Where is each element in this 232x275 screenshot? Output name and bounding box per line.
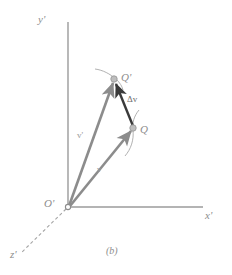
y-axis-label: y' (38, 14, 45, 25)
vector-group (69, 83, 133, 206)
vector-v-label: v (97, 165, 102, 174)
point-q-prime-label: Q' (121, 72, 131, 83)
axis-group (22, 22, 203, 252)
trajectory-through-q-prime-curve (95, 69, 123, 90)
q-prime-point-marker (111, 76, 117, 82)
vector-v-prime-label: v' (77, 131, 83, 140)
diagram-canvas (0, 0, 232, 275)
origin-point-marker (65, 204, 70, 209)
point-q-label: Q (140, 124, 148, 135)
figure-caption: (b) (106, 246, 118, 256)
x-axis-label: x' (205, 210, 212, 221)
vector-delta-v-arrow (116, 84, 133, 126)
vector-v-prime-arrow (69, 83, 113, 206)
z-axis-label: z' (10, 249, 17, 260)
origin-label: O' (44, 198, 54, 209)
trajectory-through-q-curve (125, 110, 139, 156)
q-point-marker (130, 125, 136, 131)
z-axis-line (22, 209, 66, 252)
vector-diagram-figure: y' x' z' O' Q' Q v' v Δv (b) (0, 0, 232, 275)
vector-delta-v-label: Δv (127, 95, 137, 104)
